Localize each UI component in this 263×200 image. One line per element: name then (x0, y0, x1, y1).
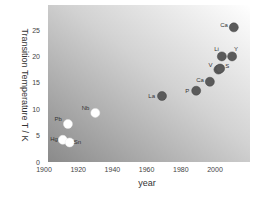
x-tick-label: 1980 (173, 166, 189, 173)
y-tick-label: 5 (36, 132, 40, 139)
x-tick-label: 1960 (139, 166, 155, 173)
data-point (229, 23, 238, 32)
y-tick-label: 20 (32, 53, 40, 60)
data-point (63, 119, 72, 128)
x-tick-label: 1940 (105, 166, 121, 173)
x-axis-label: year (138, 178, 156, 188)
point-label: Hg (50, 136, 58, 142)
data-point (205, 77, 214, 86)
data-point (157, 92, 166, 101)
y-tick-label: 15 (32, 79, 40, 86)
x-axis-ticks: 190019201940196019802000 (36, 166, 223, 173)
data-point (216, 64, 225, 73)
point-label: Sn (74, 139, 81, 145)
y-tick-label: 0 (36, 159, 40, 166)
point-label: Ca (196, 77, 204, 83)
data-point (192, 86, 201, 95)
point-label: Ca (220, 22, 228, 28)
point-label: S (225, 63, 229, 69)
x-tick-label: 2000 (207, 166, 223, 173)
point-label: La (148, 93, 155, 99)
y-axis-label: Transition Temperature T / K (20, 28, 30, 141)
x-tick-label: 1900 (36, 166, 52, 173)
y-tick-label: 25 (32, 27, 40, 34)
data-point (91, 108, 100, 117)
x-tick-label: 1920 (70, 166, 86, 173)
point-label: Li (214, 46, 219, 52)
plot-area (48, 5, 250, 162)
data-point (217, 52, 226, 61)
y-tick-label: 10 (32, 106, 40, 113)
point-label: V (208, 62, 212, 68)
point-label: Nb (82, 105, 90, 111)
point-label: Y (234, 46, 238, 52)
point-label: P (185, 88, 189, 94)
y-axis-ticks: 0510152025 (32, 27, 40, 166)
point-label: Pb (55, 116, 63, 122)
data-point (228, 52, 237, 61)
chart: 0510152025 190019201940196019802000 HgSn… (0, 0, 263, 200)
